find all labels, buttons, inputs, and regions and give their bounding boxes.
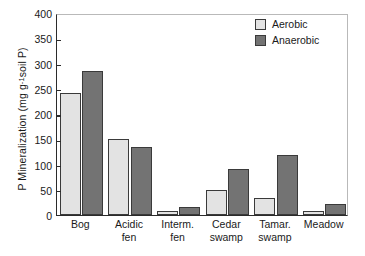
y-axis-tick-label: 400 (34, 8, 52, 20)
y-axis-tick-label: 300 (34, 59, 52, 71)
bar-anaerobic-4 (277, 155, 298, 215)
legend-swatch-anaerobic (255, 35, 266, 46)
y-axis-tick-label: 0 (46, 210, 52, 222)
x-axis-tick-label-line: Cedar (210, 218, 243, 231)
y-axis-tick-mark (57, 166, 61, 167)
x-axis-tick-labels: BogAcidicfenInterm.fenCedarswampTamar.sw… (56, 218, 348, 254)
bar-anaerobic-1 (131, 147, 152, 215)
x-axis-tick-label-line: swamp (258, 231, 291, 244)
x-axis-tick-label-line: fen (115, 231, 143, 244)
x-axis-tick-label-line: Meadow (304, 218, 344, 231)
y-axis-tick-mark (57, 141, 61, 142)
bar-chart-figure: P Mineralization (mg g-1 soil P) 0501001… (0, 0, 365, 256)
legend-swatch-aerobic (255, 19, 266, 30)
bar-anaerobic-3 (228, 169, 249, 215)
x-axis-tick-label: Acidicfen (115, 218, 143, 243)
y-axis-tick-mark (57, 40, 61, 41)
x-axis-tick-label-line: Acidic (115, 218, 143, 231)
bar-anaerobic-2 (179, 207, 200, 215)
x-axis-tick-label-line: swamp (210, 231, 243, 244)
x-axis-tick-label: Bog (71, 218, 90, 231)
bar-aerobic-1 (108, 139, 129, 215)
legend-label: Aerobic (272, 18, 308, 30)
y-axis-tick-mark (57, 191, 61, 192)
x-axis-tick-label-line: Tamar. (258, 218, 291, 231)
x-axis-tick-label: Tamar.swamp (258, 218, 291, 243)
bar-aerobic-2 (157, 211, 178, 215)
y-axis-tick-labels: 050100150200250300350400 (26, 14, 52, 216)
bar-anaerobic-0 (82, 71, 103, 215)
chart-legend: AerobicAnaerobic (255, 18, 319, 46)
y-axis-tick-label: 100 (34, 160, 52, 172)
legend-label: Anaerobic (272, 34, 319, 46)
legend-item-anaerobic: Anaerobic (255, 34, 319, 46)
bar-aerobic-5 (303, 211, 324, 215)
y-axis-tick-label: 200 (34, 109, 52, 121)
bar-aerobic-4 (254, 198, 275, 215)
y-axis-tick-label: 50 (40, 185, 52, 197)
y-axis-tick-mark (57, 65, 61, 66)
y-axis-tick-label: 250 (34, 84, 52, 96)
x-axis-tick-label: Cedarswamp (210, 218, 243, 243)
y-axis-tick-label: 350 (34, 33, 52, 45)
y-axis-tick-mark (57, 90, 61, 91)
bar-aerobic-0 (60, 93, 81, 215)
bar-aerobic-3 (206, 190, 227, 215)
y-axis-tick-label: 150 (34, 134, 52, 146)
y-axis-tick-mark (57, 115, 61, 116)
x-axis-tick-label-line: Bog (71, 218, 90, 231)
x-axis-tick-label-line: fen (161, 231, 194, 244)
x-axis-tick-label: Interm.fen (161, 218, 194, 243)
legend-item-aerobic: Aerobic (255, 18, 319, 30)
bar-anaerobic-5 (325, 204, 346, 215)
x-axis-tick-label: Meadow (304, 218, 344, 231)
x-axis-tick-label-line: Interm. (161, 218, 194, 231)
